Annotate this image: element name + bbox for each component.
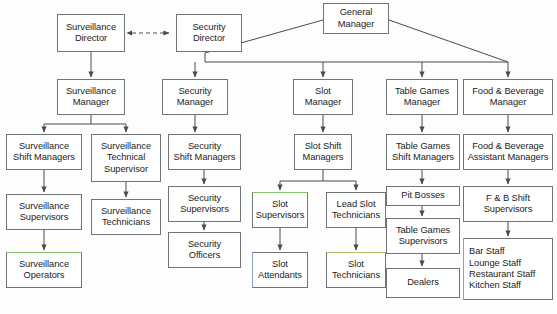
org-node-label: Attendants (258, 270, 302, 281)
org-node-label: Technicians (332, 210, 380, 221)
org-node-pit-bosses[interactable]: Pit Bosses (386, 186, 460, 206)
org-node-security-director[interactable]: SecurityDirector (176, 14, 242, 52)
org-node-surveillance-supervisors[interactable]: SurveillanceSupervisors (6, 194, 82, 230)
org-node-slot-attendants[interactable]: SlotAttendants (252, 252, 308, 288)
org-node-label: Supervisors (20, 212, 69, 223)
org-node-label: Manager (338, 19, 374, 30)
org-node-food-beverage-manager[interactable]: Food & BeverageManager (463, 79, 553, 115)
org-node-security-shift-managers[interactable]: SecurityShift Managers (168, 134, 241, 170)
org-node-label: Slot (315, 86, 331, 97)
org-node-label: Supervisors (399, 236, 448, 247)
org-node-label: Surveillance (19, 141, 69, 152)
org-node-label: Manager (73, 97, 109, 108)
org-node-label: Operators (24, 270, 65, 281)
org-node-surveillance-shift-managers[interactable]: SurveillanceShift Managers (6, 134, 82, 170)
org-node-label: Bar Staff (469, 246, 505, 257)
org-node-surveillance-technicians[interactable]: SurveillanceTechnicians (91, 199, 161, 235)
org-node-fb-staff[interactable]: Bar StaffLounge StaffRestaurant StaffKit… (463, 238, 553, 300)
org-node-label: Manager (490, 97, 526, 108)
org-node-label: Surveillance (66, 22, 116, 33)
org-node-label: Shift Managers (13, 152, 75, 163)
org-node-label: Slot Shift (305, 141, 342, 152)
org-node-label: Assistant Managers (468, 152, 549, 163)
org-node-dealers[interactable]: Dealers (386, 268, 460, 298)
org-node-table-games-manager[interactable]: Table GamesManager (386, 79, 458, 115)
org-node-label: Surveillance (101, 141, 151, 152)
org-node-food-beverage-assistant-managers[interactable]: Food & BeverageAssistant Managers (463, 134, 553, 170)
org-node-label: Table Games (396, 225, 450, 236)
org-node-label: F & B Shift (486, 193, 530, 204)
org-node-label: Security (188, 193, 221, 204)
org-node-surveillance-technical-supervisor[interactable]: SurveillanceTechnicalSupervisor (91, 134, 161, 182)
org-node-label: Surveillance (101, 206, 151, 217)
org-node-security-manager[interactable]: SecurityManager (162, 79, 228, 115)
org-node-table-games-supervisors[interactable]: Table GamesSupervisors (386, 218, 460, 254)
org-node-slot-manager[interactable]: SlotManager (293, 79, 353, 115)
org-node-label: Table Games (396, 141, 450, 152)
org-node-label: Supervisors (256, 210, 305, 221)
org-node-label: Shift Managers (392, 152, 454, 163)
org-node-label: Surveillance (19, 259, 69, 270)
org-node-surveillance-operators[interactable]: SurveillanceOperators (6, 252, 82, 288)
org-node-label: Managers (303, 152, 344, 163)
org-node-label: Director (193, 33, 225, 44)
org-node-label: Slot (272, 199, 288, 210)
org-node-label: Restaurant Staff (469, 269, 535, 280)
org-node-label: Surveillance (19, 201, 69, 212)
org-node-label: Technical (107, 152, 145, 163)
org-node-label: Kitchen Staff (469, 280, 521, 291)
org-chart: GeneralManagerSurveillanceDirectorSecuri… (0, 0, 557, 314)
org-node-label: Supervisors (484, 204, 533, 215)
org-node-label: Manager (177, 97, 213, 108)
org-node-security-supervisors[interactable]: SecuritySupervisors (168, 186, 241, 222)
org-node-fb-shift-supervisors[interactable]: F & B ShiftSupervisors (463, 186, 553, 222)
org-node-label: Slot (348, 259, 364, 270)
org-node-surveillance-manager[interactable]: SurveillanceManager (57, 79, 125, 115)
org-node-security-officers[interactable]: SecurityOfficers (168, 232, 241, 268)
org-node-label: Manager (305, 97, 341, 108)
org-node-label: Supervisors (180, 204, 229, 215)
org-node-slot-supervisors[interactable]: SlotSupervisors (252, 192, 308, 228)
org-node-label: Food & Beverage (472, 86, 544, 97)
org-node-label: Technicians (102, 217, 150, 228)
org-node-label: Security (188, 141, 221, 152)
org-node-label: Manager (404, 97, 440, 108)
org-node-label: Lounge Staff (469, 258, 521, 269)
org-node-label: Pit Bosses (401, 190, 444, 201)
org-node-label: Director (75, 33, 107, 44)
org-node-label: Supervisor (104, 164, 148, 175)
org-node-label: Dealers (407, 277, 439, 288)
org-node-table-games-shift-managers[interactable]: Table GamesShift Managers (386, 134, 460, 170)
org-node-slot-technicians[interactable]: SlotTechnicians (326, 252, 386, 288)
org-node-label: Lead Slot (337, 199, 376, 210)
org-node-label: Security (192, 22, 225, 33)
org-node-label: Technicians (332, 270, 380, 281)
edge-gm-to-right-bus (389, 20, 508, 62)
org-node-label: Security (188, 239, 221, 250)
org-node-label: Surveillance (66, 86, 116, 97)
org-node-label: General (340, 7, 373, 18)
org-node-lead-slot-technicians[interactable]: Lead SlotTechnicians (326, 192, 386, 228)
org-node-surveillance-director[interactable]: SurveillanceDirector (57, 14, 125, 52)
org-node-label: Shift Managers (174, 152, 236, 163)
org-node-label: Officers (189, 250, 220, 261)
org-node-label: Table Games (395, 86, 449, 97)
org-node-label: Security (178, 86, 211, 97)
org-node-slot-shift-managers[interactable]: Slot ShiftManagers (294, 134, 352, 170)
org-node-label: Food & Beverage (472, 141, 544, 152)
org-node-label: Slot (272, 259, 288, 270)
org-node-general-manager[interactable]: GeneralManager (323, 3, 389, 34)
